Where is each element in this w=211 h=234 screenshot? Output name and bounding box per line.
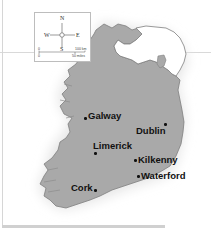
compass-east-label: E <box>76 32 80 38</box>
city-label-dublin: Dublin <box>136 126 166 136</box>
compass-scale-inset: N S W E 0 100 km 0 50 miles <box>34 12 91 62</box>
galway-marker <box>84 117 87 120</box>
compass-north-label: N <box>60 15 64 21</box>
scale-miles-end: 50 miles <box>72 54 85 58</box>
scale-miles-start: 0 <box>38 54 40 58</box>
limerick-marker <box>94 152 97 155</box>
cork-marker <box>94 189 97 192</box>
city-label-limerick: Limerick <box>93 141 132 151</box>
waterford-marker <box>137 175 140 178</box>
city-label-waterford: Waterford <box>141 171 186 181</box>
kilkenny-marker <box>134 159 137 162</box>
city-label-galway: Galway <box>88 111 121 121</box>
city-label-cork: Cork <box>71 183 93 193</box>
compass-south-label: S <box>60 46 63 52</box>
map-frame: N S W E 0 100 km 0 50 miles Galway Dubli… <box>0 0 211 234</box>
city-label-kilkenny: Kilkenny <box>138 155 178 165</box>
compass-west-label: W <box>44 32 50 38</box>
scale-km-start: 0 <box>38 47 40 51</box>
scale-km-end: 100 km <box>75 47 86 51</box>
